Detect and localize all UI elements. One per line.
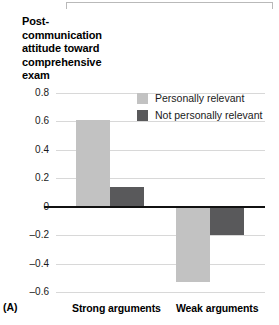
bar (210, 207, 244, 235)
y-tick-label: 0.8 (35, 88, 49, 98)
y-axis-title-line: comprehensive (22, 56, 132, 70)
figure-panel-a: Post-communicationattitude towardcompreh… (0, 0, 279, 325)
legend-item: Not personally relevant (137, 108, 262, 122)
y-tick-label: –0.6 (30, 287, 49, 297)
y-axis-title: Post-communicationattitude towardcompreh… (22, 15, 132, 83)
y-tick-label: 0.2 (35, 173, 49, 183)
y-axis-title-line: communication (22, 29, 132, 43)
bar (110, 187, 144, 207)
zero-baseline (44, 206, 265, 209)
gridline (56, 235, 265, 236)
bar (176, 207, 210, 282)
bar (76, 120, 110, 207)
legend-label: Not personally relevant (155, 110, 262, 121)
legend: Personally relevantNot personally releva… (137, 91, 262, 125)
legend-item: Personally relevant (137, 91, 262, 105)
y-tick-label: 0 (43, 202, 49, 212)
y-tick-label: 0.4 (35, 145, 49, 155)
x-axis-label-strong-arguments: Strong arguments (72, 302, 161, 314)
gridline (56, 264, 265, 265)
x-axis-label-weak-arguments: Weak arguments (176, 302, 258, 314)
panel-label: (A) (3, 301, 18, 313)
y-axis-title-line: Post- (22, 15, 132, 29)
legend-swatch (137, 93, 148, 104)
y-tick-label: 0.6 (35, 116, 49, 126)
legend-label: Personally relevant (155, 93, 244, 104)
y-tick-label: –0.2 (30, 230, 49, 240)
y-tick-label: –0.4 (30, 259, 49, 269)
y-axis-title-line: attitude toward (22, 42, 132, 56)
cropped-box-edge (66, 2, 273, 9)
y-axis-title-line: exam (22, 69, 132, 83)
gridline (56, 292, 265, 293)
legend-swatch (137, 110, 148, 121)
